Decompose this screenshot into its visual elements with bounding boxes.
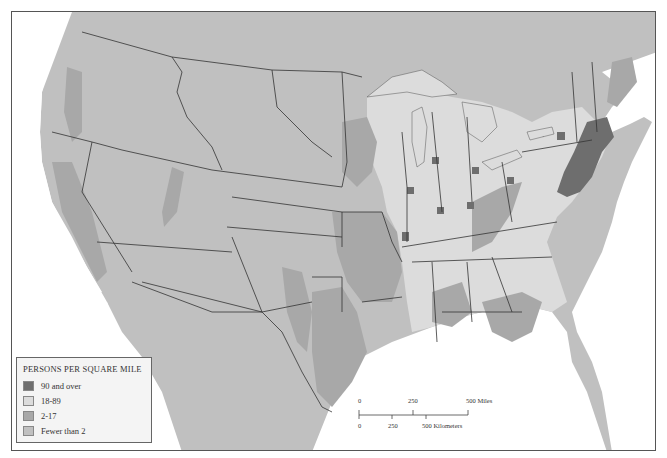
scale-miles-0: 0 bbox=[358, 397, 361, 404]
scale-km-250: 250 bbox=[388, 422, 398, 429]
scale-miles-500: 500 Miles bbox=[466, 397, 492, 404]
legend-label: 90 and over bbox=[41, 381, 81, 391]
legend-item-2-17: 2-17 bbox=[23, 408, 145, 423]
legend-label: 2-17 bbox=[41, 411, 57, 421]
legend: PERSONS PER SQUARE MILE 90 and over 18-8… bbox=[16, 357, 152, 443]
legend-label: 18-89 bbox=[41, 396, 61, 406]
scale-km-500: 500 Kilometers bbox=[422, 422, 462, 429]
legend-swatch bbox=[23, 411, 34, 421]
density-90-plus-spot bbox=[557, 132, 565, 140]
map-frame: PERSONS PER SQUARE MILE 90 and over 18-8… bbox=[11, 11, 656, 451]
density-90-plus-spot bbox=[437, 207, 444, 214]
legend-label: Fewer than 2 bbox=[41, 426, 85, 436]
scale-bar: 0 250 500 Miles 0 250 500 Kilometers bbox=[342, 397, 512, 437]
density-90-plus-spot bbox=[432, 157, 439, 164]
legend-title: PERSONS PER SQUARE MILE bbox=[23, 364, 145, 374]
legend-item-18-89: 18-89 bbox=[23, 393, 145, 408]
scale-km-0: 0 bbox=[358, 422, 361, 429]
legend-swatch bbox=[23, 381, 34, 391]
legend-swatch bbox=[23, 426, 34, 436]
legend-item-fewer-than-2: Fewer than 2 bbox=[23, 423, 145, 438]
density-90-plus-spot bbox=[467, 202, 474, 209]
legend-item-90-and-over: 90 and over bbox=[23, 378, 145, 393]
density-90-plus-spot bbox=[507, 177, 514, 184]
density-90-plus-spot bbox=[472, 167, 479, 174]
density-90-plus-spot bbox=[402, 232, 409, 241]
legend-swatch bbox=[23, 396, 34, 406]
density-90-plus-spot bbox=[407, 187, 414, 194]
scale-miles-250: 250 bbox=[408, 397, 418, 404]
